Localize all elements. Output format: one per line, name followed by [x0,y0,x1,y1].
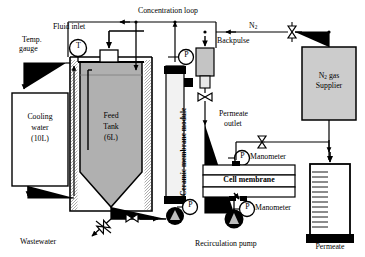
temperature-gauge-glyph: T [70,42,87,50]
label-concentration-loop: Concentration loop [138,7,198,15]
label-feed-tank-line1: Feed [81,112,141,120]
wastewater-valve[interactable] [92,219,111,236]
label-n2-supplier-line2: Supplier [302,82,356,90]
label-wastewater: Wastewater [20,238,56,246]
label-n2-supplier-line1: N2 gas [302,72,356,81]
label-cooling-water-line2: water [12,124,68,132]
feed-pump [166,207,184,225]
label-manometer-upper: Manometer [250,153,286,161]
label-temp-gauge-line1: Temp. [22,36,42,44]
label-cooling-water-line3: (10L) [12,135,68,143]
label-manometer-lower: Manometer [255,204,291,212]
label-feed-tank-line3: (6L) [81,134,141,142]
label-cooling-water-line1: Cooling [12,113,68,121]
label-backpulse: Backpulse [217,37,249,45]
label-ceramic-membrane-module: Ceramic membrane module [180,108,188,196]
label-permeate-outlet-line2: outlet [224,120,242,128]
process-flow-diagram: Fluid inlet Temp. gauge T Concentration … [0,0,365,257]
backpulse-valve[interactable] [198,88,212,106]
label-recirculation-pump: Recirculation pump [195,240,257,248]
label-feed-tank-line2: Tank [81,123,141,131]
label-permeate-outlet-line1: Permeate [219,110,248,118]
label-permeate: Permeate [302,243,358,251]
label-temp-gauge-line2: gauge [19,45,38,53]
pressure-gauge-glyph-cell-upper: P [235,152,250,160]
label-fluid-inlet: Fluid inlet [53,23,85,31]
label-nitrogen: N2 [249,22,257,31]
backpulse-vessel [196,36,214,88]
n2-supply-valve[interactable] [288,22,296,42]
pressure-gauge-glyph-module-top: P [179,51,194,59]
pressure-gauge-glyph-cell-lower: P [240,203,255,211]
pressure-gauge-glyph-module-bottom: P [183,201,198,209]
permeate-collection-cylinder [306,152,354,243]
label-cell-membrane: Cell membrane [203,176,295,184]
